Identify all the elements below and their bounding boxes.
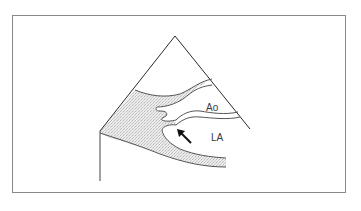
echo-diagram: Ao LA [0, 0, 361, 211]
label-left-atrium: LA [211, 132, 224, 143]
sector-right-edge [175, 36, 250, 129]
label-aorta: Ao [206, 102, 219, 113]
figure-frame [13, 16, 346, 193]
posterior-aortic-wall-lower [176, 117, 240, 125]
shaded-tissue-region [100, 82, 226, 167]
arrow-icon [177, 129, 191, 143]
